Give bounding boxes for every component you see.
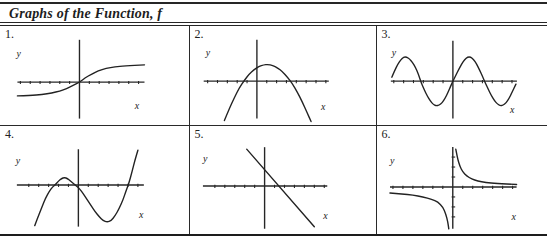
graph-cell: 2. yx <box>190 26 377 126</box>
graph-cell: 1. yx <box>0 26 190 126</box>
graph-canvas: yx <box>377 126 547 234</box>
graph-canvas: yx <box>190 126 376 234</box>
worksheet-page: Graphs of the Function, f 1. yx 2. yx 3.… <box>0 0 547 242</box>
page-title: Graphs of the Function, f <box>9 6 162 21</box>
function-curve <box>224 65 311 122</box>
x-axis-label: x <box>322 209 328 220</box>
graph-canvas: yx <box>0 26 189 125</box>
graph-grid: 1. yx 2. yx 3. yx 4. yx 5. yx 6. yx <box>0 26 547 234</box>
function-curve <box>17 65 144 96</box>
x-axis-label: x <box>509 104 515 115</box>
function-curve <box>455 149 516 184</box>
graph-canvas: yx <box>0 126 189 234</box>
graph-cell: 4. yx <box>0 126 190 234</box>
y-axis-label: y <box>390 47 396 58</box>
graph-cell: 5. yx <box>190 126 377 234</box>
table-header: Graphs of the Function, f <box>0 4 547 22</box>
bottom-border-line <box>0 234 547 237</box>
function-curve <box>389 192 448 228</box>
graph-canvas: yx <box>377 26 547 125</box>
y-axis-label: y <box>15 155 21 166</box>
y-axis-label: y <box>204 47 210 58</box>
y-axis-label: y <box>201 153 207 164</box>
function-curve <box>35 150 138 225</box>
x-axis-label: x <box>510 210 516 221</box>
y-axis-label: y <box>388 155 394 166</box>
x-axis-label: x <box>134 100 140 111</box>
graph-cell: 6. yx <box>377 126 547 234</box>
graph-canvas: yx <box>190 26 376 125</box>
x-axis-label: x <box>138 208 144 219</box>
y-axis-label: y <box>15 48 21 59</box>
x-axis-label: x <box>319 101 325 112</box>
graph-cell: 3. yx <box>377 26 547 126</box>
